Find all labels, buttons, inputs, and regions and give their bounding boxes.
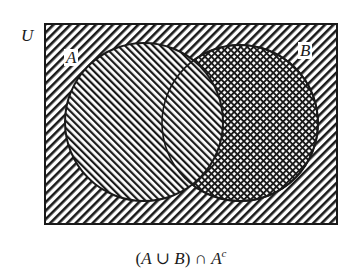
caption-set-a-complement: A xyxy=(211,249,221,268)
set-a-label: A xyxy=(64,49,78,66)
caption-complement-superscript: c xyxy=(222,247,227,259)
caption-set-b: B xyxy=(174,249,184,268)
set-b-label: B xyxy=(298,42,312,59)
diagram-caption: (A ∪ B) ∩ Ac xyxy=(0,247,362,269)
universe-label: U xyxy=(21,27,33,44)
caption-intersection-symbol: ∩ xyxy=(190,249,211,268)
caption-union-symbol: ∪ xyxy=(152,249,175,268)
set-a-circle xyxy=(65,43,223,201)
caption-set-a: A xyxy=(141,249,151,268)
